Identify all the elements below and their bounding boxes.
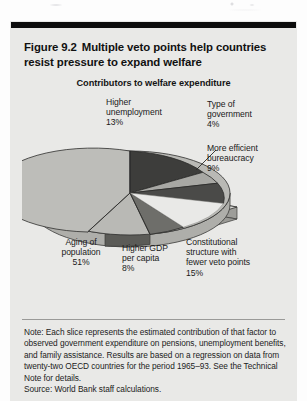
slice-label-gdp: Higher GDP per capita 8% [122, 243, 184, 274]
figure-panel: Figure 9.2Multiple veto points help coun… [10, 21, 297, 401]
figure-number: Figure 9.2 [24, 41, 77, 53]
chart-subtitle: Contributors to welfare expenditure [10, 78, 297, 88]
scan-artifact [0, 0, 307, 12]
note-divider [22, 319, 285, 320]
figure-title: Figure 9.2Multiple veto points help coun… [24, 40, 286, 69]
slice-label-government: Type of government 4% [207, 99, 277, 130]
figure-note: Note: Each slice represents the estimate… [24, 327, 286, 395]
slice-label-aging: Aging of population 51% [46, 237, 116, 268]
pie-chart: Higher unemployment 13% Type of governme… [10, 93, 297, 321]
slice-label-constitution: Constitutional structure with fewer veto… [186, 237, 282, 278]
top-rule-divider [11, 22, 296, 28]
note-source: Source: World Bank staff calculations. [24, 384, 286, 395]
note-text: Note: Each slice represents the estimate… [24, 327, 286, 384]
scanned-page: Figure 9.2Multiple veto points help coun… [0, 0, 307, 401]
slice-label-bureaucracy: More efficient bureaucracy 9% [207, 143, 285, 174]
slice-label-unemployment: Higher unemployment 13% [106, 97, 188, 128]
